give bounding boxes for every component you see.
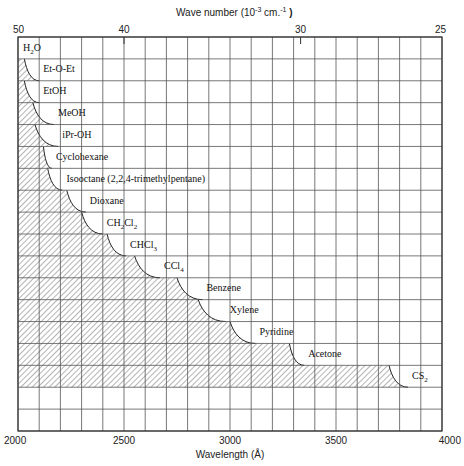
solvent-label: CS2 bbox=[412, 370, 428, 384]
bottom-tick-label: 2500 bbox=[113, 435, 136, 446]
bottom-tick-label: 2000 bbox=[4, 435, 27, 446]
solvent-cutoff-chart: H2OEt-O-EtEtOHMeOHiPr-OHCyclohexaneIsooc… bbox=[0, 0, 464, 466]
solvent-label: iPr-OH bbox=[62, 129, 91, 140]
solvent-label: CCl4 bbox=[164, 260, 184, 274]
top-tick-label: 30 bbox=[295, 24, 307, 35]
opaque-region bbox=[18, 59, 39, 81]
solvent-label: Isooctane (2,2,4-trimethylpentane) bbox=[67, 173, 206, 185]
solvent-label: MeOH bbox=[58, 107, 86, 118]
bottom-tick-label: 4000 bbox=[439, 435, 462, 446]
solvent-label: H2O bbox=[23, 42, 41, 56]
x-axis-title: Wavelength (Å) bbox=[196, 448, 265, 460]
solvent-label: EtOH bbox=[43, 85, 66, 96]
opaque-region bbox=[18, 81, 39, 103]
opaque-region bbox=[18, 278, 202, 300]
top-tick-label: 40 bbox=[118, 24, 130, 35]
solvent-label: CHCl3 bbox=[130, 239, 157, 253]
bottom-tick-label: 3000 bbox=[219, 435, 242, 446]
solvent-label: Dioxane bbox=[90, 195, 124, 206]
solvent-label: Cyclohexane bbox=[56, 151, 109, 162]
opaque-region bbox=[18, 103, 54, 125]
solvent-label: Xylene bbox=[230, 304, 259, 315]
opaque-region bbox=[18, 300, 226, 322]
top-tick-label: 50 bbox=[13, 24, 25, 35]
solvent-label: CH2Cl2 bbox=[107, 217, 138, 231]
bottom-tick-label: 3500 bbox=[325, 435, 348, 446]
opaque-region bbox=[18, 365, 408, 387]
top-tick-label: 25 bbox=[435, 24, 447, 35]
opaque-region bbox=[18, 146, 52, 168]
x2-axis-title: Wave number (10-3 cm.-1 ) bbox=[176, 6, 293, 18]
opaque-region bbox=[18, 322, 255, 344]
opaque-region bbox=[18, 234, 126, 256]
solvent-label: Et-O-Et bbox=[43, 63, 75, 74]
grid bbox=[18, 37, 442, 431]
solvent-label: Benzene bbox=[206, 282, 241, 293]
solvent-label: Pyridine bbox=[259, 326, 293, 337]
solvent-label: Acetone bbox=[308, 348, 342, 359]
opaque-region bbox=[18, 125, 58, 147]
opaque-region bbox=[18, 343, 304, 365]
